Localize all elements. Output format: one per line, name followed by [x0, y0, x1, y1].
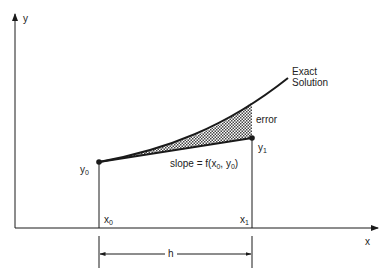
slope-text: slope = f(x	[170, 158, 216, 169]
y0-sub: 0	[85, 169, 89, 176]
error-region	[99, 102, 252, 162]
exact-solution-label-line1: Exact	[292, 66, 328, 77]
x-axis-label: x	[365, 236, 370, 247]
x1-sub: 1	[245, 219, 249, 226]
y1-sub: 1	[263, 147, 267, 154]
x1-label: x1	[240, 214, 249, 228]
exact-solution-label: Exact Solution	[292, 66, 328, 88]
slope-end: )	[235, 158, 238, 169]
point-y1	[249, 135, 255, 141]
point-y0	[96, 159, 102, 165]
y1-label: y1	[258, 142, 267, 156]
y-axis-label: y	[23, 13, 28, 24]
diagram-canvas	[0, 0, 387, 280]
y0-label: y0	[80, 164, 89, 178]
slope-mid: , y	[220, 158, 231, 169]
step-h-label: h	[168, 248, 174, 259]
x0-sub: 0	[109, 219, 113, 226]
x0-label: x0	[104, 214, 113, 228]
slope-label: slope = f(x0, y0)	[170, 158, 238, 172]
exact-solution-label-line2: Solution	[292, 77, 328, 88]
error-label: error	[256, 114, 277, 125]
